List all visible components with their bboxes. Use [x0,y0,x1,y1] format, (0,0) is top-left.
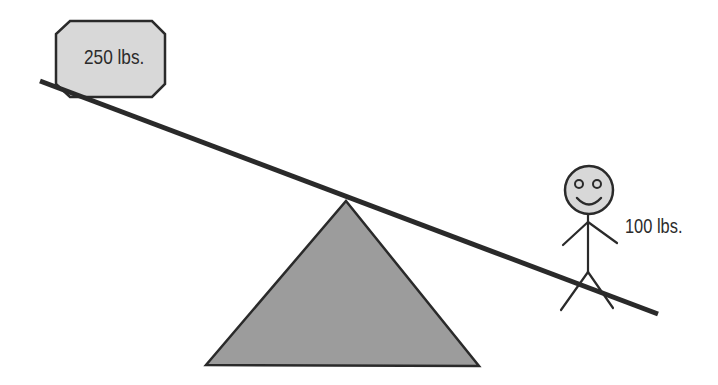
stick-figure-left-arm [563,222,588,245]
heavy-weight-label: 250 lbs. [84,45,144,69]
seesaw-diagram: 250 lbs. 100 lbs. [0,0,718,385]
light-weight-label: 100 lbs. [625,215,682,237]
fulcrum-triangle [206,201,479,366]
stick-figure-right-arm [588,222,617,243]
stick-figure-head [565,166,613,214]
